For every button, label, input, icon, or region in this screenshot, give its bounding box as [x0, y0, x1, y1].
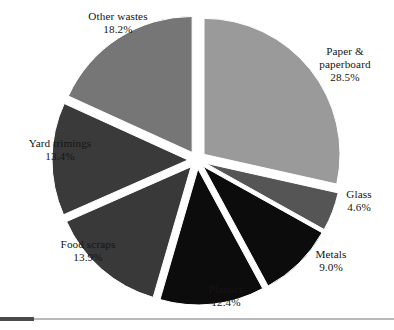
pie-slice-paper-paperboard	[204, 18, 340, 184]
slice-label-food-scraps-value: 13.9%	[42, 251, 134, 264]
slice-label-paper-paperboard: Paper & paperboard 28.5%	[300, 45, 390, 85]
slice-label-other-wastes-value: 18.2%	[62, 23, 174, 36]
slice-label-glass: Glass 4.6%	[330, 188, 388, 214]
slice-label-metals-name: Metals	[300, 248, 362, 261]
slice-label-yard-trimings-name: Yard trimings	[10, 137, 110, 150]
slice-label-plastics-name: Plastics	[186, 283, 266, 296]
slice-label-food-scraps-name: Food scraps	[42, 238, 134, 251]
slice-label-paper-paperboard-name-line1: Paper &	[300, 45, 390, 58]
footer-rule	[0, 317, 394, 321]
slice-label-plastics-value: 12.4%	[186, 296, 266, 309]
slice-label-metals-value: 9.0%	[300, 261, 362, 274]
slice-label-plastics: Plastics 12.4%	[186, 283, 266, 309]
footer-rule-block	[0, 317, 34, 321]
slice-label-glass-value: 4.6%	[330, 201, 388, 214]
slice-label-paper-paperboard-value: 28.5%	[300, 71, 390, 84]
slice-label-glass-name: Glass	[330, 188, 388, 201]
slice-label-yard-trimings: Yard trimings 13.4%	[10, 137, 110, 163]
slice-label-metals: Metals 9.0%	[300, 248, 362, 274]
footer-rule-line	[34, 318, 394, 320]
pie-chart-figure: Other wastes 18.2% Paper & paperboard 28…	[0, 0, 394, 330]
slice-label-other-wastes-name: Other wastes	[62, 10, 174, 23]
slice-label-yard-trimings-value: 13.4%	[10, 150, 110, 163]
slice-label-food-scraps: Food scraps 13.9%	[42, 238, 134, 264]
slice-label-paper-paperboard-name-line2: paperboard	[300, 58, 390, 71]
slice-label-other-wastes: Other wastes 18.2%	[62, 10, 174, 36]
